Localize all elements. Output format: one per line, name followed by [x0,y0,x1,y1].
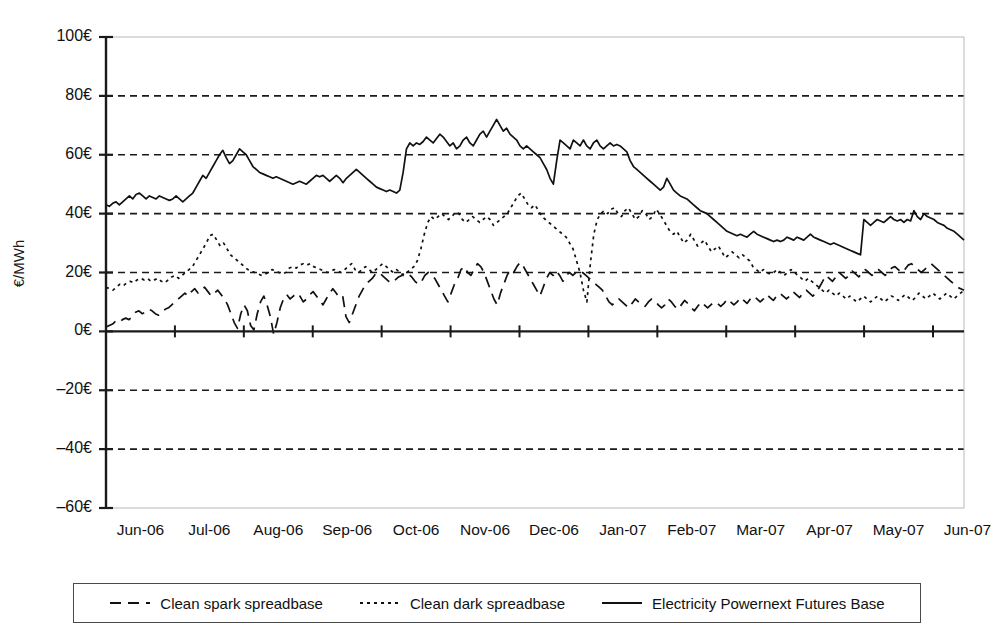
legend-label: Clean dark spreadbase [410,595,565,612]
y-axis-tick-label: 40€ [30,205,92,221]
y-axis-tick-label: –60€ [30,499,92,515]
legend-label: Electricity Powernext Futures Base [652,595,885,612]
legend-item: Electricity Powernext Futures Base [601,595,885,612]
y-axis-tick-label: 0€ [30,322,92,338]
y-axis-tick-label: 100€ [30,28,92,44]
x-axis-tick-label: Jun-06 [117,521,164,539]
x-axis-tick-label: Apr-07 [806,521,853,539]
y-axis-tick-label: 80€ [30,87,92,103]
y-axis-title: €/MWh [10,224,27,304]
x-axis-tick-label: Sep-06 [322,521,372,539]
y-axis-tick-label: –40€ [30,440,92,456]
series-line [106,119,964,254]
legend-item: Clean spark spreadbase [109,595,323,612]
chart-container: €/MWh 100€80€60€40€20€0€–20€–40€–60€ Jun… [0,0,993,642]
x-axis-tick-label: Jan-07 [599,521,646,539]
chart-legend: Clean spark spreadbaseClean dark spreadb… [73,583,921,623]
legend-item: Clean dark spreadbase [359,595,565,612]
legend-label: Clean spark spreadbase [160,595,323,612]
x-axis-tick-label: Dec-06 [529,521,579,539]
y-axis-tick-labels: 100€80€60€40€20€0€–20€–40€–60€ [30,0,92,642]
plot-area [0,0,993,642]
plot-frame [106,37,964,508]
series-line [106,262,964,334]
x-axis-tick-label: Aug-06 [253,521,303,539]
legend-swatch-dashed [109,597,151,609]
x-axis-tick-label: Jun-07 [944,521,991,539]
x-axis-tick-label: Jul-06 [188,521,230,539]
legend-swatch-dotted [359,597,401,609]
x-axis-tick-label: Oct-06 [393,521,440,539]
legend-swatch-solid [601,597,643,609]
y-axis-tick-label: 60€ [30,146,92,162]
x-axis-tick-label: Mar-07 [736,521,785,539]
y-axis-tick-label: 20€ [30,264,92,280]
x-axis-tick-label: Nov-06 [460,521,510,539]
y-axis-tick-label: –20€ [30,381,92,397]
x-axis-tick-label: Feb-07 [667,521,716,539]
gridlines [106,96,964,449]
x-axis-tick-label: May-07 [873,521,925,539]
series-lines [106,119,964,334]
